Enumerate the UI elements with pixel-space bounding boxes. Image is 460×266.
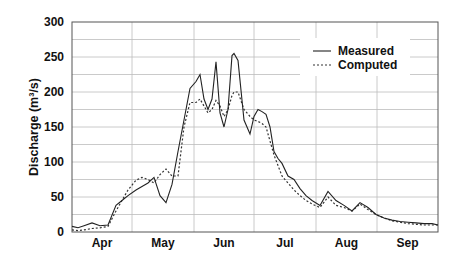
computed-series-line — [72, 92, 438, 231]
y-axis-label: Discharge (m³/s) — [27, 78, 41, 176]
legend-measured-label: Measured — [338, 44, 394, 58]
discharge-chart: 050100150200250300 AprMayJunJulAugSep Di… — [0, 0, 460, 266]
legend-computed-label: Computed — [338, 58, 397, 72]
y-tick-label: 0 — [57, 225, 64, 239]
legend: Measured Computed — [300, 38, 410, 76]
y-tick-label: 150 — [44, 120, 64, 134]
x-tick-label: Apr — [92, 236, 113, 250]
y-tick-label: 250 — [44, 50, 64, 64]
x-tick-label: Jun — [213, 236, 234, 250]
x-axis-ticks: AprMayJunJulAugSep — [92, 236, 419, 250]
y-tick-label: 300 — [44, 15, 64, 29]
x-tick-label: May — [151, 236, 175, 250]
x-tick-label: Jul — [276, 236, 293, 250]
x-tick-label: Sep — [396, 236, 418, 250]
y-tick-label: 100 — [44, 155, 64, 169]
x-tick-label: Aug — [335, 236, 358, 250]
y-tick-label: 200 — [44, 85, 64, 99]
measured-series-line — [72, 54, 438, 228]
y-axis-ticks: 050100150200250300 — [44, 15, 64, 239]
y-tick-label: 50 — [51, 190, 65, 204]
